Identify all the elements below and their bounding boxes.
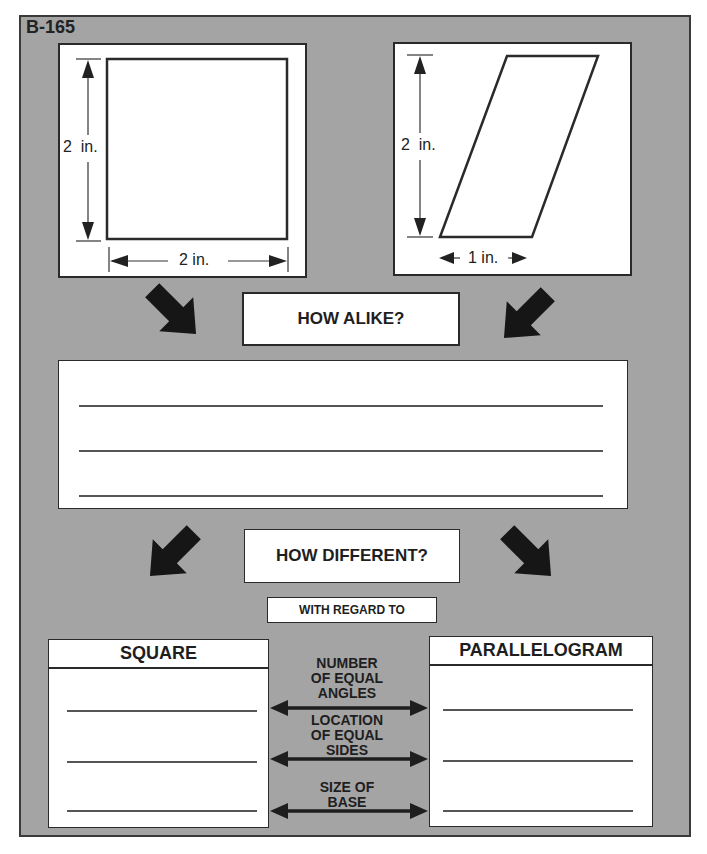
comparison-arrows [0, 0, 707, 854]
double-arrow-icon [270, 700, 428, 716]
double-arrow-icon [270, 803, 428, 819]
double-arrow-icon [270, 751, 428, 767]
